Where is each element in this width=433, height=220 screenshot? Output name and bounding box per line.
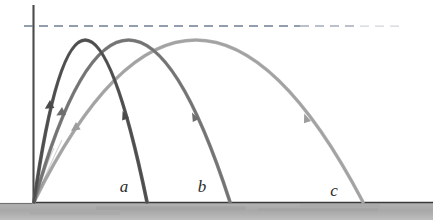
projectile-trajectory-figure: a b c: [0, 0, 433, 220]
trajectory-canvas: a b c: [0, 0, 433, 220]
curve-label-a: a: [120, 177, 129, 196]
curve-label-b: b: [198, 177, 207, 196]
curve-label-c: c: [330, 181, 338, 200]
